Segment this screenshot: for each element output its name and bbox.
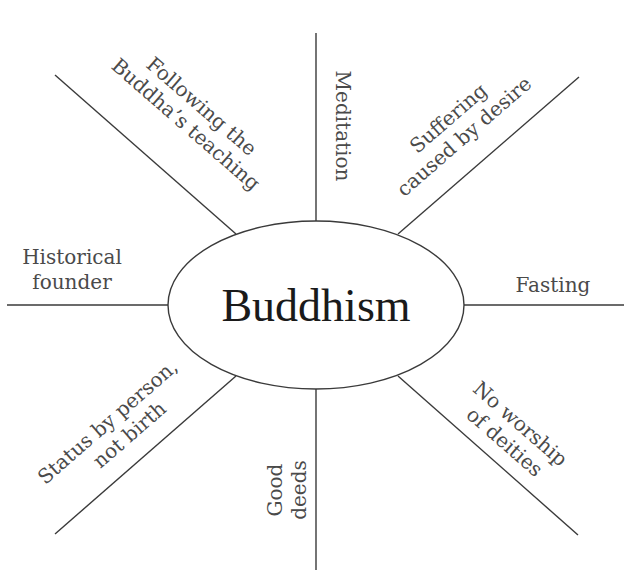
spoke-label-right: Fasting xyxy=(516,273,591,297)
spoke-label-left: Historical founder xyxy=(22,245,122,294)
spoke-label-line: Fasting xyxy=(516,273,591,297)
spoke-label-line: deeds xyxy=(287,460,311,520)
spoke-label-top-right: Suffering caused by desire xyxy=(376,53,536,201)
spoke-label-line: founder xyxy=(32,270,112,294)
spoke-label-top-left: Following the Buddha’s teaching xyxy=(107,35,281,195)
spoke-label-line: Historical xyxy=(22,245,122,269)
spoke-label-line: Meditation xyxy=(331,71,355,182)
spoke-label-line: Good xyxy=(263,463,287,516)
center-label: Buddhism xyxy=(221,280,410,331)
spoke-label-top: Meditation xyxy=(331,71,355,182)
spoke-label-bottom-right: No worship of deities xyxy=(453,376,573,489)
buddhism-concept-web: Buddhism Following the Buddha’s teaching… xyxy=(0,0,624,570)
spoke-label-bottom: Good deeds xyxy=(263,460,311,520)
